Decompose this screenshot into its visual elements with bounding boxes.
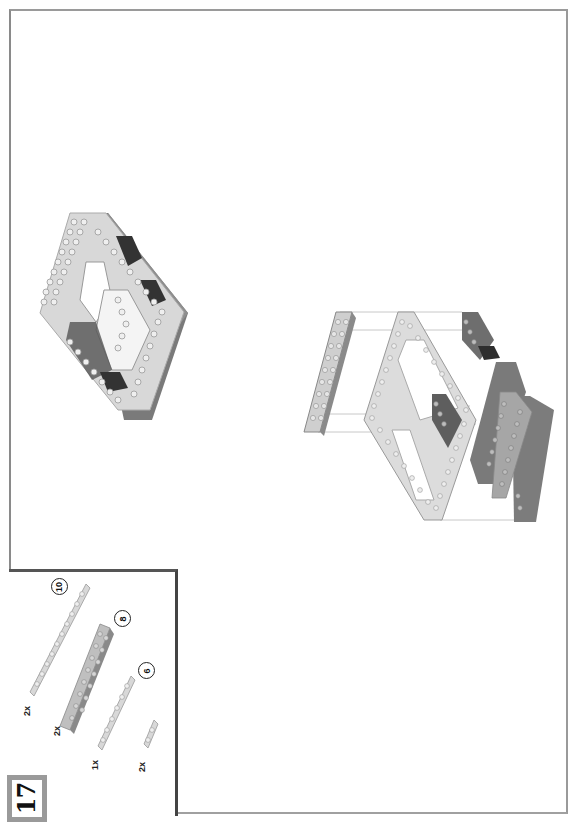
part-length-badge: 8 <box>114 610 131 627</box>
part-quantity: 1x <box>90 760 100 770</box>
step-number: 17 <box>13 783 42 814</box>
part-quantity: 2x <box>52 726 62 736</box>
parts-list-illustrations <box>0 0 578 822</box>
part-length-badge: 6 <box>138 662 155 679</box>
step-number-box: 17 <box>7 775 47 822</box>
part-quantity: 2x <box>137 762 147 772</box>
part-quantity: 2x <box>22 706 32 716</box>
part-length-badge: 10 <box>51 578 68 595</box>
